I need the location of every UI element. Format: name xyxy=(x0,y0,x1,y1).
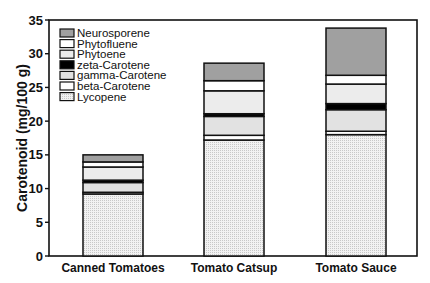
bar-segment-phytofluene xyxy=(204,81,264,91)
y-axis: 05101520253035 xyxy=(29,13,49,264)
legend-swatch xyxy=(60,40,74,48)
bar-segment-gamma-carotene xyxy=(83,183,143,193)
bar-segment-phytofluene xyxy=(326,75,386,84)
bar-stack xyxy=(83,155,143,256)
bar-segment-phytoene xyxy=(83,167,143,180)
y-tick-label: 35 xyxy=(29,13,43,28)
bar-segment-neurosporene xyxy=(204,63,264,81)
bar-segment-lycopene xyxy=(83,194,143,256)
y-tick-label: 10 xyxy=(29,181,43,196)
x-category-label: Tomato Catsup xyxy=(191,261,277,275)
bar-segment-zeta-carotene xyxy=(326,104,386,110)
bar-segment-neurosporene xyxy=(83,155,143,162)
bar-segment-phytoene xyxy=(326,84,386,104)
bar-stack xyxy=(326,28,386,256)
legend-swatch xyxy=(60,50,74,58)
bar-segment-phytoene xyxy=(204,91,264,114)
bar-segment-gamma-carotene xyxy=(204,116,264,135)
bar-segment-lycopene xyxy=(326,135,386,256)
legend-swatch xyxy=(60,93,74,101)
y-tick-label: 15 xyxy=(29,147,43,162)
x-category-label: Tomato Sauce xyxy=(315,261,396,275)
legend-item: Lycopene xyxy=(60,91,126,103)
y-tick-label: 25 xyxy=(29,80,43,95)
y-tick-label: 30 xyxy=(29,46,43,61)
y-tick-label: 20 xyxy=(29,114,43,129)
legend: NeurosporenePhytofluenePhytoenezeta-Caro… xyxy=(60,27,166,103)
legend-swatch xyxy=(60,82,74,90)
bar-segment-phytofluene xyxy=(83,162,143,167)
y-axis-title: Carotenoid (mg/100 g) xyxy=(14,64,30,212)
legend-swatch xyxy=(60,71,74,79)
stacked-bar-chart: 05101520253035 Canned TomatoesTomato Cat… xyxy=(0,0,430,283)
y-tick-label: 5 xyxy=(36,215,43,230)
x-axis: Canned TomatoesTomato CatsupTomato Sauce xyxy=(61,261,396,275)
legend-swatch xyxy=(60,61,74,69)
bar-segment-lycopene xyxy=(204,140,264,256)
bar-stack xyxy=(204,63,264,256)
legend-label: Lycopene xyxy=(77,91,126,103)
legend-swatch xyxy=(60,29,74,37)
x-category-label: Canned Tomatoes xyxy=(61,261,164,275)
bar-segment-neurosporene xyxy=(326,28,386,75)
y-tick-label: 0 xyxy=(36,249,43,264)
bar-segment-gamma-carotene xyxy=(326,110,386,132)
